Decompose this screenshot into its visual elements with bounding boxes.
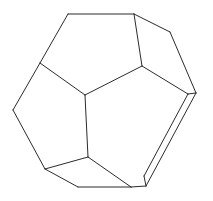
- edge-right-sliver-inner-edge: [144, 94, 188, 176]
- edge-right-sliver-top: [188, 93, 196, 94]
- dodecahedron-wireframe-svg: [0, 0, 213, 201]
- edge-left-upper-edge: [13, 63, 40, 110]
- edge-lower-left-spoke: [45, 157, 88, 169]
- edge-right-sliver-bottom: [144, 176, 146, 186]
- edge-right-upper-to-right: [142, 66, 188, 94]
- edge-top-left-edge: [40, 14, 68, 63]
- edge-bottom-right-edge: [131, 186, 146, 187]
- edge-right-upper-stem: [134, 14, 142, 66]
- edge-top-right-upper-edge: [134, 14, 170, 32]
- edge-right-outer-upper-edge: [170, 32, 196, 93]
- edge-bottom-left-edge: [45, 169, 78, 187]
- dodecahedron-figure: [0, 0, 213, 201]
- edge-inner-left-spoke: [40, 63, 85, 95]
- edge-right-sliver-outer-edge: [146, 93, 196, 186]
- edge-lower-right-spoke: [88, 157, 131, 187]
- edge-group: [13, 14, 196, 187]
- edge-inner-vertical-spoke: [85, 95, 88, 157]
- edge-inner-right-spoke: [85, 66, 142, 95]
- edge-left-lower-edge: [13, 110, 45, 169]
